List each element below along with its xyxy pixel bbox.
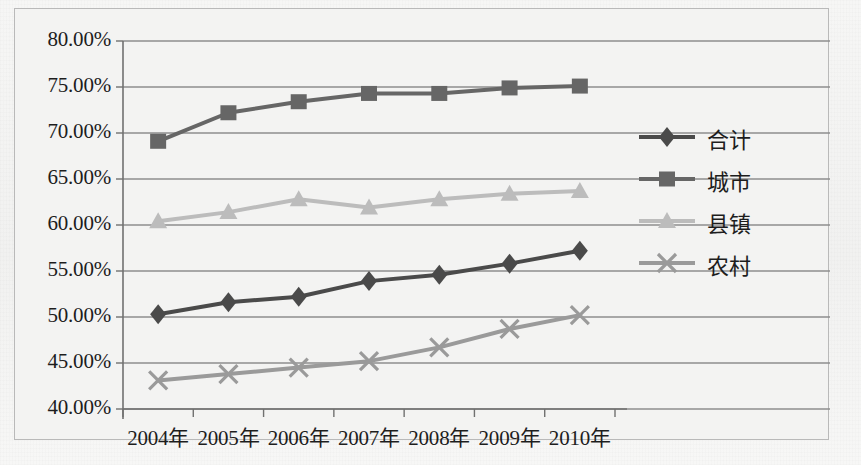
y-axis-tick-label: 50.00% bbox=[47, 303, 111, 328]
series-3 bbox=[149, 182, 589, 228]
y-axis-tick-label: 60.00% bbox=[47, 211, 111, 236]
data-point-marker-square bbox=[150, 134, 166, 149]
legend-swatch-square bbox=[637, 164, 699, 194]
data-point-marker-square bbox=[361, 86, 377, 101]
y-axis-tick-label: 70.00% bbox=[47, 119, 111, 144]
y-axis-tick-label: 80.00% bbox=[47, 27, 111, 52]
data-point-marker-square bbox=[502, 80, 518, 95]
y-axis-tick-label: 45.00% bbox=[47, 349, 111, 374]
series-1 bbox=[150, 241, 588, 324]
data-point-marker-square bbox=[572, 79, 588, 94]
data-point-marker-diamond bbox=[659, 127, 675, 147]
y-axis-tick-label: 65.00% bbox=[47, 165, 111, 190]
legend-label: 城市 bbox=[707, 164, 751, 196]
data-point-marker-square bbox=[291, 94, 307, 109]
legend-swatch-triangle bbox=[637, 206, 699, 236]
data-point-marker-diamond bbox=[572, 241, 588, 261]
data-point-marker-diamond bbox=[150, 304, 166, 324]
series-line bbox=[158, 315, 580, 380]
y-axis-tick-label: 75.00% bbox=[47, 73, 111, 98]
data-point-marker-square bbox=[659, 172, 675, 187]
x-axis-tick-label: 2010年 bbox=[545, 421, 615, 451]
data-point-marker-square bbox=[220, 105, 236, 120]
data-point-marker-diamond bbox=[431, 265, 447, 285]
data-point-marker-diamond bbox=[361, 271, 377, 291]
legend-label: 农村 bbox=[707, 248, 751, 280]
series-2 bbox=[150, 79, 588, 149]
legend-label: 合计 bbox=[707, 122, 751, 154]
x-axis-tick-label: 2007年 bbox=[334, 421, 404, 451]
data-point-marker-diamond bbox=[220, 292, 236, 312]
x-axis-tick-label: 2006年 bbox=[264, 421, 334, 451]
legend-swatch-cross bbox=[637, 248, 699, 278]
y-axis-tick-label: 55.00% bbox=[47, 257, 111, 282]
series-4 bbox=[149, 306, 589, 389]
legend-swatch-diamond bbox=[637, 122, 699, 152]
x-axis-tick-label: 2008年 bbox=[404, 421, 474, 451]
x-axis-tick-label: 2009年 bbox=[474, 421, 544, 451]
data-point-marker-diamond bbox=[291, 287, 307, 307]
y-axis-tick-label: 40.00% bbox=[47, 395, 111, 420]
x-axis-tick-label: 2004年 bbox=[123, 421, 193, 451]
chart-frame: 40.00%45.00%50.00%55.00%60.00%65.00%70.0… bbox=[14, 8, 829, 440]
x-axis-tick-label: 2005年 bbox=[193, 421, 263, 451]
legend-label: 县镇 bbox=[707, 206, 751, 238]
data-point-marker-square bbox=[431, 86, 447, 101]
